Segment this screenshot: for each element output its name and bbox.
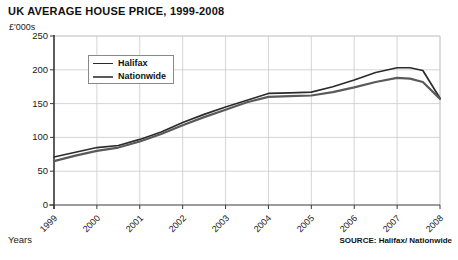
y-axis-tick-label: 250: [22, 30, 48, 41]
chart-legend: Halifax Nationwide: [88, 55, 174, 84]
source-note: SOURCE: Halifax/ Nationwide: [340, 236, 452, 245]
y-axis-tick-label: 150: [22, 98, 48, 109]
y-axis-tick-label: 200: [22, 64, 48, 75]
legend-label-nationwide: Nationwide: [118, 72, 166, 81]
legend-swatch-nationwide: [93, 76, 113, 78]
legend-item-halifax: Halifax: [93, 57, 148, 70]
y-axis-tick-label: 50: [22, 165, 48, 176]
legend-swatch-halifax: [93, 63, 113, 64]
legend-label-halifax: Halifax: [118, 59, 148, 68]
legend-item-nationwide: Nationwide: [93, 70, 166, 83]
x-axis-label: Years: [8, 234, 32, 245]
y-axis-tick-label: 100: [22, 131, 48, 142]
y-axis-tick-label: 0: [22, 199, 48, 210]
series-line-nationwide: [54, 78, 440, 161]
chart-container: UK AVERAGE HOUSE PRICE, 1999-2008 £'000s…: [0, 0, 458, 260]
